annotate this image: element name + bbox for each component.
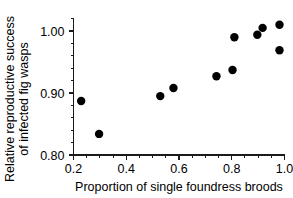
data-point: 0.897, 0.994: [253, 31, 261, 39]
y-axis-title-line-2: of infected fig wasps: [17, 42, 31, 155]
x-tick-label-0.4: 0.4: [118, 162, 135, 176]
data-point: 0.981, 1.01: [275, 21, 283, 29]
y-tick-label-0.80: 0.80: [40, 149, 64, 163]
y-axis-title-line-1: Relative reproductive success: [3, 16, 17, 182]
y-axis-title: Relative reproductive success of infecte…: [3, 16, 31, 182]
x-axis-title: Proportion of single foundress broods: [75, 180, 283, 194]
plot-canvas: Relative reproductive success of infecte…: [0, 0, 293, 198]
x-axis-tick-labels: 0.20.40.60.81.0: [65, 162, 293, 176]
x-tick-label-0.2: 0.2: [65, 162, 82, 176]
data-point: 0.529, 0.895: [156, 92, 164, 100]
data-point: 0.579, 0.908: [169, 84, 177, 92]
y-axis-tick-labels: 0.800.901.00: [40, 25, 64, 163]
data-point: 0.917, 1.005: [258, 24, 266, 32]
data-point-series: 0.229, 0.8870.297, 0.8340.529, 0.8950.57…: [77, 21, 284, 139]
x-tick-label-1.0: 1.0: [276, 162, 293, 176]
data-point: 0.81, 0.99: [230, 33, 238, 41]
x-tick-label-0.8: 0.8: [223, 162, 240, 176]
scatter-plot-figure: Relative reproductive success of infecte…: [0, 0, 293, 198]
data-point: 0.229, 0.887: [77, 97, 85, 105]
x-tick-label-0.6: 0.6: [170, 162, 187, 176]
data-point: 0.297, 0.834: [95, 130, 103, 138]
y-tick-label-0.90: 0.90: [40, 87, 64, 101]
data-point: 0.742, 0.927: [212, 72, 220, 80]
y-tick-label-1.00: 1.00: [40, 25, 64, 39]
data-point: 0.981, 0.969: [275, 46, 283, 54]
data-point: 0.803, 0.937: [228, 66, 236, 74]
